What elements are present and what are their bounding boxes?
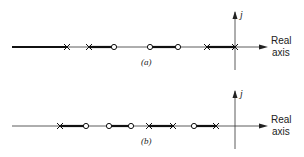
zero-o-icon <box>83 123 88 128</box>
caption-a: (a) <box>141 57 152 67</box>
imag-axis-arrow-icon-a <box>233 11 238 19</box>
zero-o-icon <box>147 44 152 49</box>
caption-b: (b) <box>141 136 152 146</box>
zero-o-icon <box>128 123 133 128</box>
real-axis-arrow-icon-b <box>259 124 268 129</box>
real-axis-arrow-icon-a <box>259 45 268 50</box>
real-axis-label-b-line1: Real <box>271 115 292 125</box>
zero-o-icon <box>191 123 196 128</box>
imag-axis-label-a: j <box>240 9 243 20</box>
zero-o-icon <box>111 44 116 49</box>
imag-axis-arrow-icon-b <box>233 90 238 98</box>
real-axis-label-b-line2: axis <box>272 127 290 137</box>
real-axis-label-a-line2: axis <box>272 48 290 58</box>
root-locus-diagrams <box>0 0 304 157</box>
zero-o-icon <box>106 123 111 128</box>
real-axis-label-a-line1: Real <box>271 36 292 46</box>
imag-axis-label-b: j <box>240 88 243 99</box>
zero-o-icon <box>175 44 180 49</box>
